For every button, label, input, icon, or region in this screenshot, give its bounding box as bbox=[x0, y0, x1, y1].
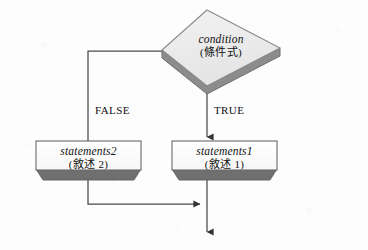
flowchart-vector-layer bbox=[0, 0, 368, 250]
edge-label-false: FALSE bbox=[95, 104, 130, 116]
edge-false-merge bbox=[88, 180, 200, 204]
condition-face bbox=[162, 10, 280, 86]
statements1-face bbox=[172, 141, 277, 170]
statements2-shadow bbox=[36, 169, 141, 180]
node-statements1-shape[interactable] bbox=[172, 141, 277, 180]
flowchart-canvas: condition (條件式) statements2 (敘述 2) state… bbox=[0, 0, 368, 250]
statements2-face bbox=[36, 141, 141, 170]
edge-false-branch bbox=[88, 51, 162, 141]
edge-label-true: TRUE bbox=[214, 104, 244, 116]
statements1-shadow bbox=[172, 169, 277, 180]
node-statements2-shape[interactable] bbox=[36, 141, 141, 180]
node-condition-shape[interactable] bbox=[162, 10, 280, 94]
